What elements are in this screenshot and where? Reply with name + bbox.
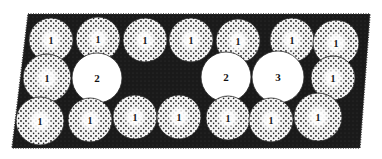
stippled-circle: 1 (113, 95, 157, 139)
circle-label: 1 (316, 112, 321, 123)
stippled-circle: 1 (16, 97, 64, 145)
circle-label: 1 (189, 35, 194, 46)
circle-label: 1 (143, 35, 148, 46)
circle-label: 1 (49, 35, 54, 46)
stippled-circle: 1 (249, 98, 293, 142)
circle-label: 3 (275, 71, 281, 83)
circle-label: 1 (226, 113, 231, 124)
stippled-circle: 1 (169, 18, 213, 62)
stippled-circle: 1 (157, 95, 201, 139)
stippled-circle: 1 (206, 96, 250, 140)
circle-label: 1 (290, 35, 295, 46)
circle-label: 1 (45, 73, 50, 84)
stippled-circle: 1 (23, 54, 71, 102)
stippled-circle: 1 (68, 98, 112, 142)
plain-circle: 2 (201, 52, 251, 102)
plain-circle: 3 (252, 51, 304, 103)
circle-label: 2 (94, 72, 100, 84)
stippled-circle: 1 (123, 18, 167, 62)
circle-packing-diagram: 1111111122311111111 (0, 0, 382, 159)
circle-label: 1 (177, 112, 182, 123)
plain-circle: 2 (72, 53, 122, 103)
circle-label: 2 (223, 71, 229, 83)
circle-label: 1 (331, 73, 336, 84)
stippled-circle: 1 (294, 93, 342, 141)
circle-label: 1 (38, 116, 43, 127)
circle-label: 1 (269, 115, 274, 126)
circle-label: 1 (133, 112, 138, 123)
circle-label: 1 (96, 34, 101, 45)
circle-label: 1 (88, 115, 93, 126)
circle-label: 1 (236, 36, 241, 47)
circle-label: 1 (334, 38, 339, 49)
